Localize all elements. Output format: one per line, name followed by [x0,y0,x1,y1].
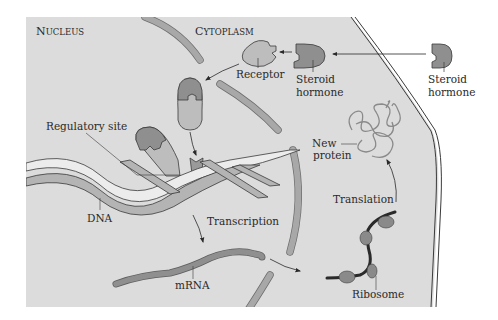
dna-label: DNA [87,212,113,224]
steroid-hormone-outside-label-1: Steroid [428,73,467,85]
cytoplasm-label: CYTOPLASM [195,25,254,38]
regulatory-site-label: Regulatory site [46,120,127,132]
transcription-label: Transcription [207,215,279,227]
mrna-label: mRNA [175,279,210,291]
receptor-label: Receptor [236,68,285,80]
ribosome-label: Ribosome [352,288,404,300]
ribosome [339,271,355,283]
steroid-hormone-inside-label-2: hormone [296,86,343,98]
ribosome [378,216,394,228]
steroid-hormone-outside: Steroid hormone [428,44,475,98]
hormone-outside-shape [432,44,452,68]
hormone-receptor-complex [178,78,203,130]
translation-label: Translation [333,193,394,205]
hormone-inside-shape [294,44,325,68]
ribosome [360,231,372,245]
new-protein-label-2: protein [313,149,352,161]
ribosome [367,264,377,278]
steroid-hormone-inside-label-1: Steroid [296,73,335,85]
steroid-hormone-outside-label-2: hormone [428,86,475,98]
nucleus-label: NUCLEUS [36,25,84,38]
new-protein-label-1: New [312,137,336,149]
steroid-hormone-diagram: NUCLEUS CYTOPLASM Steroid hormone Steroi… [0,0,498,320]
